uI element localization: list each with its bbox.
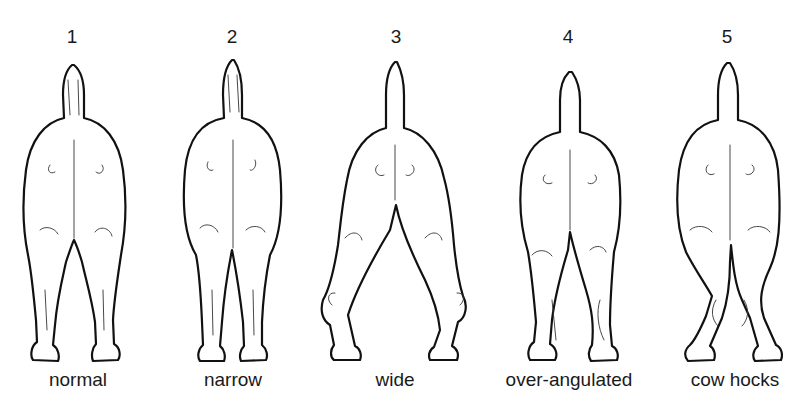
- figure-number-1: 1: [52, 26, 92, 48]
- hindquarters-outline: [184, 60, 281, 361]
- hindquarters-outline: [322, 62, 466, 360]
- illustration-canvas: [0, 0, 809, 403]
- figure-number-2: 2: [212, 26, 252, 48]
- hindquarters-outline: [24, 65, 126, 361]
- figure-label-narrow: narrow: [143, 369, 323, 391]
- figure-cow-hocks: [677, 63, 782, 361]
- figure-label-wide: wide: [305, 369, 485, 391]
- figure-normal: [24, 65, 126, 361]
- figure-wide: [322, 62, 466, 360]
- figure-number-5: 5: [707, 26, 747, 48]
- figure-number-4: 4: [548, 26, 588, 48]
- conformation-diagram: 1 2 3 4 5 normal narrow wide over-angula…: [0, 0, 809, 403]
- figure-label-over-angulated: over-angulated: [479, 369, 659, 391]
- figure-over-angulated: [520, 72, 620, 361]
- figure-narrow: [184, 60, 281, 361]
- figure-label-cow-hocks: cow hocks: [645, 369, 809, 391]
- figure-number-3: 3: [376, 26, 416, 48]
